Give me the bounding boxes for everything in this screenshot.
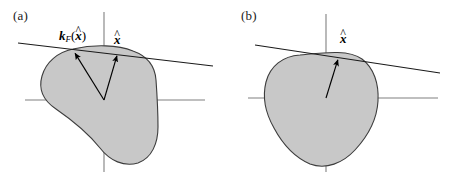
fermi-surface-region bbox=[264, 53, 378, 167]
fermi-surface-region bbox=[41, 46, 158, 164]
panel-a bbox=[0, 0, 226, 183]
xhat-b-glyph: ^x bbox=[340, 32, 347, 45]
hat-accent-icon: ^ bbox=[76, 25, 82, 37]
direction-unit-vector-label: ^x bbox=[114, 33, 121, 46]
hat-accent-icon: ^ bbox=[340, 28, 346, 40]
panel-b bbox=[226, 0, 451, 183]
figure-root: (a) (b) kF(^x) ^x ^x bbox=[0, 0, 451, 183]
panel-a-canvas bbox=[0, 0, 226, 183]
panel-b-label: (b) bbox=[241, 8, 257, 24]
panel-b-canvas bbox=[226, 0, 451, 183]
kf-argument: ^x bbox=[75, 29, 82, 42]
hat-accent-icon: ^ bbox=[114, 29, 120, 41]
fermi-momentum-label: kF(^x) bbox=[59, 29, 86, 44]
xhat-a-glyph: ^x bbox=[114, 33, 121, 46]
kf-close-paren: ) bbox=[82, 28, 86, 43]
panel-a-label: (a) bbox=[13, 8, 28, 24]
direction-unit-vector-label: ^x bbox=[340, 32, 347, 45]
